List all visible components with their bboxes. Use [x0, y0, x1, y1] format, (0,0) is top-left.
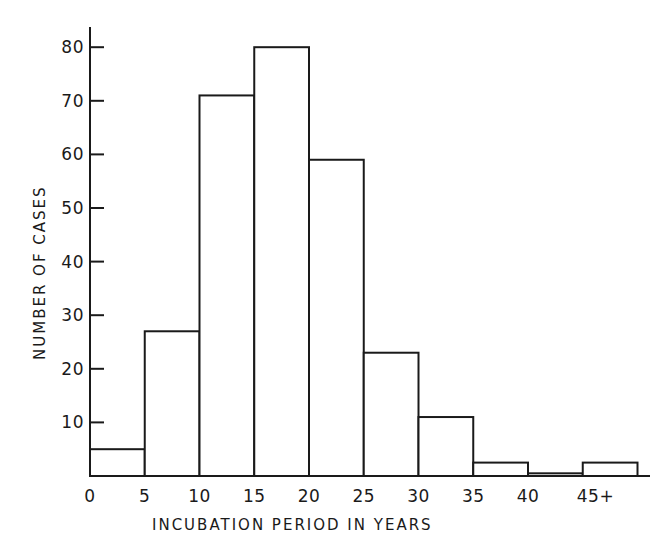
x-tick-label: 30: [407, 486, 430, 506]
y-axis-title: NUMBER OF CASES: [31, 185, 49, 360]
x-tick-label: 40: [517, 486, 540, 506]
x-tick-label: 35: [462, 486, 485, 506]
bar-35-40: [473, 463, 528, 476]
bar-45+: [583, 463, 638, 476]
x-tick-label: 45+: [577, 486, 614, 506]
bar-15-20: [254, 47, 309, 476]
bar-30-35: [419, 417, 474, 476]
y-tick-label: 60: [61, 144, 84, 164]
x-tick-label: 10: [188, 486, 211, 506]
y-tick-label: 80: [61, 37, 84, 57]
x-ticks-group: 051015202530354045+: [84, 486, 614, 506]
x-tick-label: 5: [139, 486, 150, 506]
histogram-chart: 1020304050607080 051015202530354045+ INC…: [0, 0, 671, 557]
x-axis-title: INCUBATION PERIOD IN YEARS: [152, 516, 433, 534]
y-ticks-group: 1020304050607080: [61, 37, 104, 432]
bar-0-5: [90, 449, 145, 476]
y-tick-label: 70: [61, 91, 84, 111]
x-tick-label: 15: [243, 486, 266, 506]
x-tick-label: 25: [352, 486, 375, 506]
x-tick-label: 20: [298, 486, 321, 506]
y-tick-label: 10: [61, 412, 84, 432]
bar-10-15: [200, 95, 255, 476]
bar-5-10: [145, 331, 200, 476]
y-tick-label: 30: [61, 305, 84, 325]
y-tick-label: 40: [61, 252, 84, 272]
bar-25-30: [364, 353, 419, 476]
bars-group: [90, 47, 638, 476]
bar-20-25: [309, 160, 364, 476]
x-tick-label: 0: [84, 486, 95, 506]
y-tick-label: 20: [61, 359, 84, 379]
y-tick-label: 50: [61, 198, 84, 218]
